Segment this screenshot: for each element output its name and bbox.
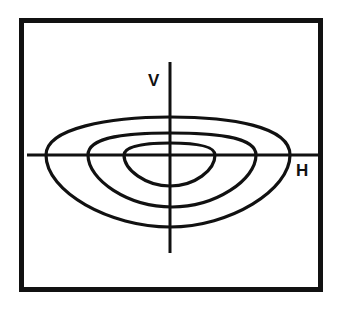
vertical-axis-label: V <box>148 71 160 90</box>
horizontal-axis-label: H <box>296 161 308 180</box>
contour-diagram: V H <box>0 0 339 309</box>
